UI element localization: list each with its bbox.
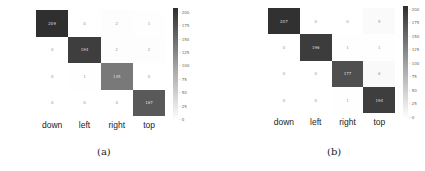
heatmap-cell: 0 [36, 63, 68, 90]
column-label: right [332, 117, 364, 127]
heatmap-cell: 0 [268, 61, 300, 87]
heatmap-cell: 0 [133, 63, 165, 90]
heatmap-cell: 167 [133, 90, 165, 117]
figure-caption: (a) [97, 146, 111, 157]
colorbar-tick-label: - 175 [409, 20, 419, 25]
heatmap-cell: 177 [332, 61, 364, 87]
heatmap-cell: 0 [101, 90, 133, 117]
colorbar-tick-label: - 100 [409, 61, 419, 66]
heatmap-cell: 1 [133, 10, 165, 37]
colorbar [173, 8, 178, 120]
heatmap-cell: 135 [101, 63, 133, 90]
heatmap-cell: 1 [363, 34, 395, 60]
colorbar-tick-label: - 50 [409, 88, 417, 93]
colorbar-tick-label: - 0 [409, 115, 414, 120]
heatmap-cell: 0 [300, 87, 332, 113]
colorbar-tick-label: - 175 [179, 23, 189, 28]
column-label: down [36, 120, 68, 130]
figure-caption: (b) [327, 146, 341, 157]
heatmap-cell: 1 [332, 87, 364, 113]
heatmap-cell: 194 [68, 37, 100, 64]
column-label: right [101, 120, 133, 130]
heatmap-cell: 196 [300, 34, 332, 60]
colorbar-tick-label: - 125 [179, 50, 189, 55]
colorbar-tick-label: - 0 [179, 117, 184, 122]
heatmap-cell: 0 [68, 90, 100, 117]
colorbar-tick-label: - 75 [179, 77, 187, 82]
heatmap-cell: 1 [332, 34, 364, 60]
column-label: down [268, 117, 300, 127]
heatmap-cell: 0 [36, 90, 68, 117]
colorbar-tick-label: - 150 [179, 37, 189, 42]
colorbar-tick-label: - 50 [179, 90, 187, 95]
heatmap-cell: 2 [133, 37, 165, 64]
heatmap-cell: 0 [332, 8, 364, 34]
heatmap-cell: 0 [300, 8, 332, 34]
colorbar-tick-label: - 100 [179, 63, 189, 68]
heatmap-cell: 2 [101, 37, 133, 64]
heatmap-cell: 1 [68, 63, 100, 90]
heatmap-grid: 209021019422011350000167 [36, 10, 165, 116]
heatmap-cell: 2 [101, 10, 133, 37]
heatmap-cell: 0 [68, 10, 100, 37]
heatmap-cell: 6 [363, 61, 395, 87]
colorbar-tick-label: - 200 [409, 7, 419, 12]
column-label: left [68, 120, 100, 130]
heatmap-cell: 0 [268, 87, 300, 113]
heatmap-cell: 209 [36, 10, 68, 37]
column-label: top [363, 117, 395, 127]
colorbar-tick-label: - 125 [409, 47, 419, 52]
heatmap-grid: 207005019611001776001194 [268, 8, 395, 113]
heatmap-cell: 0 [36, 37, 68, 64]
column-label: left [300, 117, 332, 127]
colorbar-tick-label: - 25 [179, 104, 187, 109]
colorbar-tick-label: - 150 [409, 34, 419, 39]
colorbar-tick-label: - 200 [179, 10, 189, 15]
colorbar-tick-label: - 75 [409, 74, 417, 79]
colorbar-tick-label: - 25 [409, 101, 417, 106]
column-label: top [133, 120, 165, 130]
colorbar [403, 6, 408, 118]
heatmap-cell: 0 [268, 34, 300, 60]
heatmap-cell: 5 [363, 8, 395, 34]
heatmap-cell: 194 [363, 87, 395, 113]
heatmap-cell: 0 [300, 61, 332, 87]
heatmap-cell: 207 [268, 8, 300, 34]
